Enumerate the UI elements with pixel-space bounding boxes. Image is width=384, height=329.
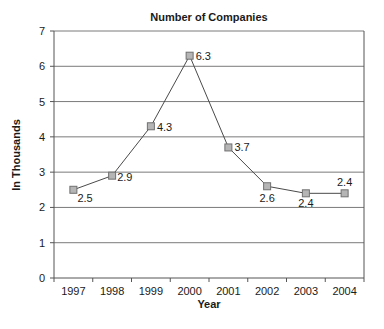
y-tick-label: 6: [39, 60, 45, 72]
x-tick-label: 2004: [332, 285, 356, 297]
y-tick-label: 5: [39, 96, 45, 108]
data-label: 2.9: [117, 171, 132, 183]
data-point-marker: [70, 186, 77, 193]
data-point-marker: [302, 190, 309, 197]
data-point-marker: [147, 123, 154, 130]
x-tick-label: 2002: [255, 285, 279, 297]
data-label: 2.5: [77, 192, 92, 204]
y-tick-label: 3: [39, 166, 45, 178]
x-tick-label: 2000: [177, 285, 201, 297]
y-tick-label: 4: [39, 131, 45, 143]
data-point-marker: [186, 52, 193, 59]
y-tick-label: 7: [39, 25, 45, 37]
data-label: 2.6: [259, 192, 274, 204]
y-tick-label: 0: [39, 272, 45, 284]
data-point-marker: [264, 183, 271, 190]
line-chart: Number of Companies In Thousands Year 01…: [0, 0, 384, 329]
data-label: 3.7: [234, 141, 249, 153]
data-point-marker: [341, 190, 348, 197]
x-tick-label: 2003: [294, 285, 318, 297]
y-axis-label: In Thousands: [10, 119, 22, 191]
data-label: 2.4: [298, 197, 313, 209]
data-series: 2.52.94.36.33.72.62.42.4: [70, 50, 352, 210]
data-label: 4.3: [157, 121, 172, 133]
data-point-marker: [109, 172, 116, 179]
x-tick-label: 1999: [139, 285, 163, 297]
x-axis-label: Year: [197, 298, 221, 310]
chart-canvas: Number of Companies In Thousands Year 01…: [0, 0, 384, 329]
y-tick-label: 1: [39, 237, 45, 249]
data-point-marker: [225, 144, 232, 151]
x-tick-label: 1997: [61, 285, 85, 297]
gridlines: [54, 31, 364, 243]
chart-title: Number of Companies: [150, 11, 267, 23]
data-label: 6.3: [196, 50, 211, 62]
y-tick-label: 2: [39, 201, 45, 213]
x-tick-label: 1998: [100, 285, 124, 297]
x-tick-label: 2001: [216, 285, 240, 297]
data-label: 2.4: [337, 176, 352, 188]
